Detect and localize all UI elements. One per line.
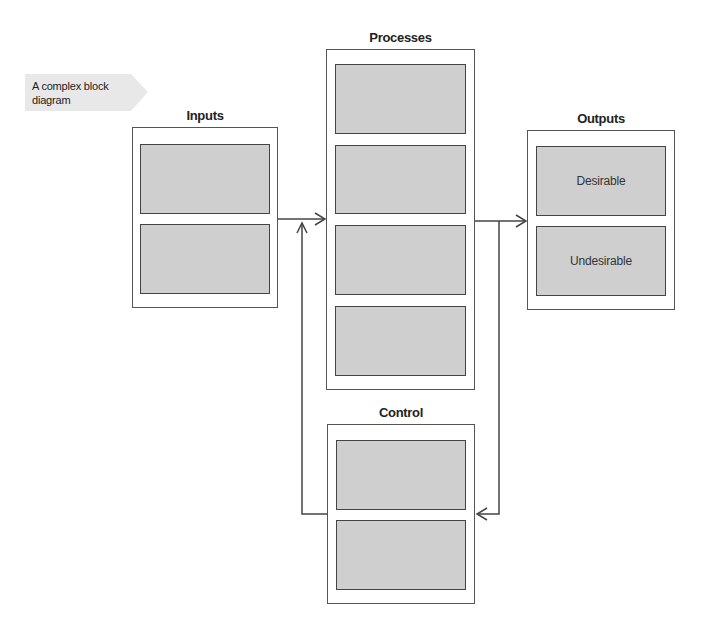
arrow-control-feedback bbox=[302, 223, 327, 514]
connector-lines bbox=[0, 0, 713, 639]
arrow-to-control bbox=[477, 221, 499, 514]
